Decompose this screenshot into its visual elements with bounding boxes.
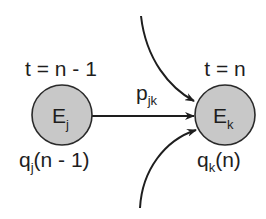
transition-diagram: t = n - 1 t = n pjk Ej Ek qj(n - 1) qk(n…	[0, 0, 266, 219]
queue-label-j: qj(n - 1)	[19, 148, 90, 175]
transition-probability-label: pjk	[136, 81, 158, 108]
node-ek: Ek	[195, 85, 255, 145]
time-label-current: t = n	[204, 57, 245, 80]
queue-label-k: qk(n)	[197, 148, 241, 175]
incoming-arrow-bottom	[140, 130, 196, 208]
node-ej: Ej	[32, 85, 92, 145]
time-label-previous: t = n - 1	[25, 57, 97, 80]
incoming-arrow-top	[141, 16, 194, 101]
